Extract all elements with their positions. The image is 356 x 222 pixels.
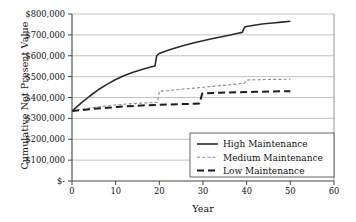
legend-label: Low Maintenance bbox=[223, 166, 304, 176]
x-tick-label: 10 bbox=[110, 186, 121, 196]
x-tick-label: 20 bbox=[154, 186, 165, 196]
y-tick-label: $700,000 bbox=[25, 30, 65, 40]
y-tick-labels: $-$100,000$200,000$300,000$400,000$500,0… bbox=[25, 9, 65, 186]
y-tick-label: $600,000 bbox=[25, 51, 65, 61]
y-tick-label: $400,000 bbox=[25, 93, 65, 103]
y-tick-label: $200,000 bbox=[25, 134, 65, 144]
legend-label: Medium Maintenance bbox=[223, 153, 323, 163]
legend: High MaintenanceMedium MaintenanceLow Ma… bbox=[190, 133, 334, 177]
y-tick-label: $800,000 bbox=[25, 9, 65, 19]
x-tick-marks bbox=[72, 181, 334, 185]
series-line bbox=[72, 91, 290, 111]
x-tick-label: 40 bbox=[241, 186, 252, 196]
y-tick-marks bbox=[68, 14, 72, 181]
y-tick-label: $- bbox=[57, 176, 65, 186]
y-tick-label: $100,000 bbox=[25, 155, 65, 165]
y-tick-label: $500,000 bbox=[25, 72, 65, 82]
x-tick-label: 60 bbox=[329, 186, 340, 196]
x-tick-label: 30 bbox=[198, 186, 209, 196]
x-tick-label: 50 bbox=[285, 186, 296, 196]
cumulative-npv-chart: Cumulative Net Present Value Year $-$100… bbox=[0, 0, 356, 222]
legend-label: High Maintenance bbox=[223, 139, 308, 149]
x-tick-labels: 0102030405060 bbox=[69, 186, 339, 196]
x-tick-label: 0 bbox=[69, 186, 74, 196]
series-line bbox=[72, 79, 290, 111]
plot-area: $-$100,000$200,000$300,000$400,000$500,0… bbox=[0, 0, 356, 222]
y-tick-label: $300,000 bbox=[25, 113, 65, 123]
